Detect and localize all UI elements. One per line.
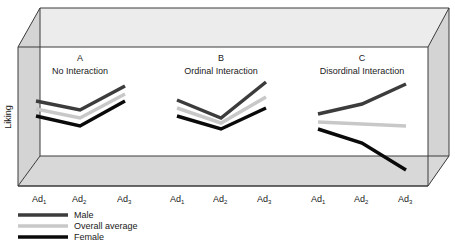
box-frame <box>18 8 449 186</box>
panel-a-title: No Interaction <box>52 66 108 76</box>
x-tick-labels: Ad1 Ad2 Ad3 Ad1 Ad2 Ad3 Ad1 Ad2 Ad3 <box>32 194 413 205</box>
legend-male-label: Male <box>74 210 94 220</box>
y-axis-label: Liking <box>3 105 13 129</box>
legend-average-label: Overall average <box>74 221 138 231</box>
tick-ad3-b: Ad3 <box>257 194 272 205</box>
tick-ad1-c: Ad1 <box>311 194 326 205</box>
tick-ad1-b: Ad1 <box>170 194 185 205</box>
tick-ad2-c: Ad2 <box>354 194 369 205</box>
panel-b-letter: B <box>218 53 224 63</box>
tick-ad1-a: Ad1 <box>32 194 47 205</box>
tick-ad2-a: Ad2 <box>72 194 87 205</box>
legend: Male Overall average Female <box>18 210 138 242</box>
box-top-face <box>18 8 449 47</box>
tick-ad3-c: Ad3 <box>398 194 413 205</box>
box-left-wall <box>18 8 40 186</box>
panel-b-title: Ordinal Interaction <box>184 66 258 76</box>
panel-c-letter: C <box>359 53 366 63</box>
panel-c-title: Disordinal Interaction <box>320 66 405 76</box>
panel-a-letter: A <box>77 53 83 63</box>
interaction-diagram: Liking A No Interaction B Ordinal Intera… <box>0 0 455 247</box>
legend-female-label: Female <box>74 232 104 242</box>
tick-ad2-b: Ad2 <box>213 194 228 205</box>
box-floor <box>18 156 449 186</box>
tick-ad3-a: Ad3 <box>117 194 132 205</box>
